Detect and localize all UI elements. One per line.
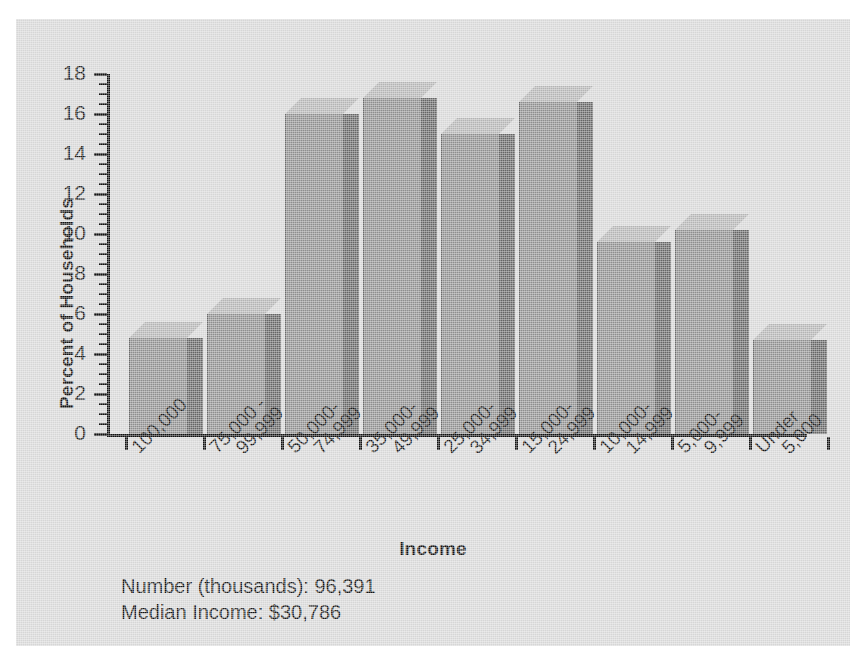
y-axis-title: Percent of Households — [56, 198, 78, 409]
bar-top-face — [675, 214, 749, 230]
y-tick-label: 18 — [46, 61, 86, 85]
bar-side-face — [577, 102, 593, 434]
bar — [285, 98, 359, 434]
y-tick-major — [94, 393, 107, 396]
y-tick-minor — [99, 133, 107, 135]
y-tick-major — [94, 273, 107, 276]
x-axis-title: Income — [16, 538, 850, 560]
bar — [675, 214, 749, 434]
bar-side-face — [499, 134, 515, 434]
bar-top-face — [597, 226, 671, 242]
y-tick-major — [94, 73, 107, 76]
y-tick-minor — [99, 143, 107, 145]
y-tick-minor — [99, 173, 107, 175]
bar-front-face — [519, 102, 577, 434]
footnote-number: Number (thousands): 96,391 — [121, 574, 376, 600]
bar — [363, 82, 437, 434]
bar-top-face — [207, 298, 281, 314]
y-tick-minor — [99, 123, 107, 125]
chart-panel: 024681012141618 100,00075,000 -99,99950,… — [16, 19, 850, 646]
bar-front-face — [363, 98, 421, 434]
y-tick-minor — [99, 213, 107, 215]
bar-top-face — [285, 98, 359, 114]
y-tick-major — [94, 313, 107, 316]
y-tick-major — [94, 353, 107, 356]
y-tick-minor — [99, 413, 107, 415]
y-tick-minor — [99, 83, 107, 85]
bar — [519, 86, 593, 434]
bar-side-face — [187, 338, 203, 434]
y-tick-minor — [99, 243, 107, 245]
y-tick-minor — [99, 303, 107, 305]
y-tick-major — [94, 193, 107, 196]
plot-area: 024681012141618 100,00075,000 -99,99950,… — [16, 19, 850, 646]
y-tick-minor — [99, 253, 107, 255]
y-axis-line — [107, 74, 110, 437]
y-tick-minor — [99, 163, 107, 165]
footnote-median-income: Median Income: $30,786 — [121, 600, 376, 626]
y-tick-minor — [99, 423, 107, 425]
y-tick-minor — [99, 203, 107, 205]
x-tick — [827, 437, 830, 450]
y-tick-major — [94, 113, 107, 116]
bar-top-face — [753, 324, 827, 340]
bar — [441, 118, 515, 434]
y-tick-minor — [99, 93, 107, 95]
y-tick-label: 14 — [46, 141, 86, 165]
bar-front-face — [441, 134, 499, 434]
y-tick-label: 16 — [46, 101, 86, 125]
y-tick-minor — [99, 403, 107, 405]
y-tick-minor — [99, 373, 107, 375]
y-tick-minor — [99, 183, 107, 185]
bar-side-face — [733, 230, 749, 434]
bar-front-face — [285, 114, 343, 434]
y-tick-major — [94, 433, 107, 436]
y-tick-minor — [99, 103, 107, 105]
bar-top-face — [363, 82, 437, 98]
bar-top-face — [441, 118, 515, 134]
y-tick-major — [94, 153, 107, 156]
y-tick-minor — [99, 263, 107, 265]
y-tick-minor — [99, 383, 107, 385]
y-tick-minor — [99, 223, 107, 225]
y-tick-minor — [99, 323, 107, 325]
y-tick-major — [94, 233, 107, 236]
bar-side-face — [421, 98, 437, 434]
y-tick-minor — [99, 333, 107, 335]
bar-top-face — [129, 322, 203, 338]
y-tick-minor — [99, 293, 107, 295]
chart-footnotes: Number (thousands): 96,391 Median Income… — [121, 574, 376, 625]
y-tick-minor — [99, 343, 107, 345]
y-tick-label: 0 — [46, 421, 86, 445]
bar-side-face — [343, 114, 359, 434]
bar-top-face — [519, 86, 593, 102]
y-tick-minor — [99, 283, 107, 285]
y-tick-minor — [99, 363, 107, 365]
